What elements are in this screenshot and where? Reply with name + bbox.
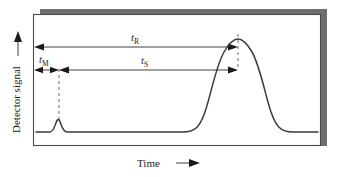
up-arrow-icon [14,31,22,56]
dimension-label-tM: tM [39,54,49,68]
dimension-label-tS: tS [141,55,148,69]
frame-drop-shadow [40,9,327,146]
dimension-tS: tS [59,55,238,73]
dimension-tM: tM [34,54,59,73]
x-axis-label: Time [137,157,160,169]
chromatogram-figure: Detector signal Time tR [0,0,347,177]
y-axis-label: Detector signal [10,66,22,133]
x-axis-group: Time [137,157,200,169]
chromatogram-svg: Detector signal Time tR [0,0,347,177]
dimension-label-tR: tR [131,32,139,46]
y-axis-group: Detector signal [10,31,22,133]
detector-signal-trace [36,39,318,132]
right-arrow-icon [176,159,200,167]
dimension-tR: tR [34,32,238,50]
